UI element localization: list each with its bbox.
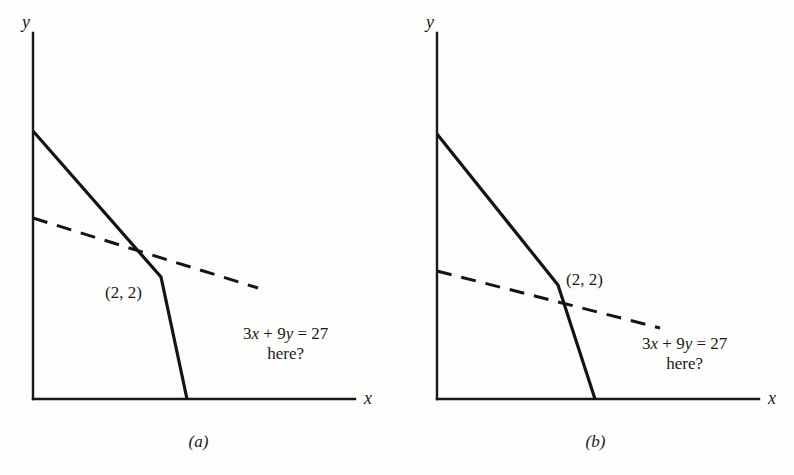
x-axis-label-b: x — [768, 388, 776, 409]
caption-a-text: (a) — [189, 432, 209, 451]
solid-boundary-a — [33, 131, 187, 399]
caption-b-text: (b) — [586, 432, 606, 451]
eqn-rhs-b: 27 — [710, 334, 727, 353]
figure-container: y x (2, 2) 3x + 9y = 27 here? (a) y x (2… — [0, 0, 794, 475]
x-axis-label-a: x — [364, 388, 372, 409]
eqn-var-x-a: x — [252, 324, 260, 343]
eqn-equals-b: = — [692, 334, 710, 353]
eqn-equals-a: = — [293, 324, 311, 343]
panel-a-plot — [0, 0, 397, 475]
point-label-a: (2, 2) — [105, 283, 142, 303]
panel-a: y x (2, 2) 3x + 9y = 27 here? (a) — [0, 0, 397, 475]
eqn-var-x-b: x — [651, 334, 659, 353]
panel-b: y x (2, 2) 3x + 9y = 27 here? (b) — [397, 0, 794, 475]
eqn-coef-y-b: 9 — [676, 334, 685, 353]
equation-question-a: here? — [243, 344, 328, 364]
equation-question-b: here? — [642, 354, 727, 374]
solid-boundary-b — [437, 134, 595, 399]
eqn-plus-a: + — [259, 324, 277, 343]
dashed-constraint-a — [33, 218, 258, 288]
eqn-coef-x-b: 3 — [642, 334, 651, 353]
eqn-rhs-a: 27 — [311, 324, 328, 343]
equation-line-b: 3x + 9y = 27 — [642, 334, 727, 354]
dashed-constraint-b — [437, 271, 660, 328]
caption-b: (b) — [397, 432, 794, 452]
y-axis-label-a: y — [22, 12, 30, 33]
caption-a: (a) — [0, 432, 397, 452]
eqn-coef-x-a: 3 — [243, 324, 252, 343]
panel-b-plot — [397, 0, 794, 475]
point-label-b: (2, 2) — [566, 270, 603, 290]
equation-annotation-a: 3x + 9y = 27 here? — [243, 324, 328, 364]
y-axis-label-b: y — [426, 12, 434, 33]
equation-line-a: 3x + 9y = 27 — [243, 324, 328, 344]
equation-annotation-b: 3x + 9y = 27 here? — [642, 334, 727, 374]
eqn-plus-b: + — [658, 334, 676, 353]
eqn-coef-y-a: 9 — [277, 324, 286, 343]
